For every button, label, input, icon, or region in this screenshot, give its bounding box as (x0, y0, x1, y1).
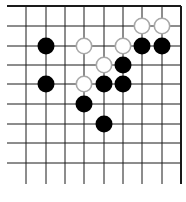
white-stone (115, 38, 130, 53)
white-stone (154, 18, 169, 33)
black-stone (96, 116, 113, 133)
black-stone (38, 76, 55, 93)
black-stone (96, 76, 113, 93)
black-stone (134, 38, 151, 55)
white-stone (134, 18, 149, 33)
white-stone (76, 76, 91, 91)
board-grid (7, 6, 181, 184)
black-stone (76, 96, 93, 113)
black-stone (154, 38, 171, 55)
black-stone (115, 76, 132, 93)
go-board-diagram (0, 0, 186, 202)
white-stone (76, 38, 91, 53)
white-stone (96, 57, 111, 72)
black-stone (38, 38, 55, 55)
black-stone (115, 57, 132, 74)
